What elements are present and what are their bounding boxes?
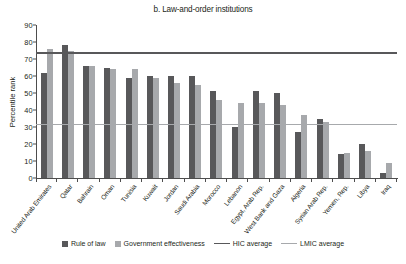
x-tick-label: Kuwait: [141, 183, 158, 202]
x-tick-mark: [163, 178, 184, 182]
bar-government-effectiveness: [68, 51, 74, 179]
x-label-cell: Tunisia: [121, 183, 142, 235]
x-tick-label: United Arab Emirates: [9, 183, 52, 235]
bar-group: [376, 25, 397, 178]
legend-item[interactable]: Government effectiveness: [115, 240, 205, 247]
y-axis-title-wrap: Percentile rank: [12, 25, 13, 178]
legend-label: Rule of law: [71, 240, 106, 247]
bar-group: [312, 25, 333, 178]
x-label-cell: Morocco: [206, 183, 227, 235]
x-tick-mark: [100, 178, 121, 182]
bar-group: [100, 25, 121, 178]
x-tick-mark: [121, 178, 142, 182]
bar-group: [185, 25, 206, 178]
x-tick-label: Iraq: [380, 183, 392, 196]
chart-figure: b. Law-and-order institutions Percentile…: [0, 0, 406, 264]
legend-label: LMIC average: [300, 240, 344, 247]
x-tick-mark: [291, 178, 312, 182]
bar-government-effectiveness: [386, 163, 392, 178]
x-tick-mark: [57, 178, 78, 182]
x-tick-mark: [333, 178, 354, 182]
bar-group: [121, 25, 142, 178]
x-label-cell: Kuwait: [142, 183, 163, 235]
x-label-cell: Oman: [100, 183, 121, 235]
bar-group: [36, 25, 57, 178]
bar-government-effectiveness: [195, 85, 201, 179]
legend-item[interactable]: Rule of law: [62, 240, 106, 247]
x-tick-label: Oman: [99, 183, 115, 201]
x-tick-mark: [185, 178, 206, 182]
bar-government-effectiveness: [365, 151, 371, 178]
x-tick-mark: [355, 178, 376, 182]
legend-item[interactable]: HIC average: [214, 240, 272, 247]
x-tick-label: Jordan: [162, 183, 180, 203]
y-axis-title: Percentile rank: [8, 76, 17, 127]
legend-swatch-rule-of-law: [62, 241, 68, 247]
x-tick-mark: [206, 178, 227, 182]
x-axis-ticks: [36, 178, 397, 182]
bar-group: [227, 25, 248, 178]
x-tick-label: Libya: [356, 183, 371, 199]
legend-swatch-government-effectiveness: [115, 241, 121, 247]
reference-line-hic-average: [36, 52, 397, 54]
bar-group: [57, 25, 78, 178]
bar-group: [163, 25, 184, 178]
x-tick-mark: [227, 178, 248, 182]
bar-government-effectiveness: [47, 49, 53, 178]
bar-government-effectiveness: [216, 100, 222, 178]
bar-group: [78, 25, 99, 178]
bar-group: [206, 25, 227, 178]
x-label-cell: Libya: [355, 183, 376, 235]
x-label-cell: Iraq: [376, 183, 397, 235]
bar-group: [270, 25, 291, 178]
legend-item[interactable]: LMIC average: [281, 240, 344, 247]
x-label-cell: Qatar: [57, 183, 78, 235]
x-label-cell: West Bank and Gaza: [270, 183, 291, 235]
x-tick-label: Bahrain: [76, 183, 95, 205]
x-tick-mark: [376, 178, 397, 182]
plot-area: 9080706050403020100: [36, 25, 397, 178]
bar-group: [333, 25, 354, 178]
x-tick-label: Algeria: [289, 183, 307, 203]
chart-legend: Rule of lawGovernment effectivenessHIC a…: [0, 240, 406, 247]
x-tick-label: Tunisia: [119, 183, 137, 203]
x-tick-mark: [36, 178, 57, 182]
bar-group: [291, 25, 312, 178]
x-label-cell: Bahrain: [78, 183, 99, 235]
x-tick-mark: [142, 178, 163, 182]
bar-government-effectiveness: [238, 103, 244, 178]
bar-government-effectiveness: [153, 78, 159, 178]
reference-line-lmic-average: [36, 124, 397, 126]
bar-government-effectiveness: [323, 122, 329, 178]
x-label-cell: United Arab Emirates: [36, 183, 57, 235]
bar-government-effectiveness: [89, 66, 95, 178]
bar-government-effectiveness: [174, 83, 180, 178]
legend-line-hic-average: [214, 243, 230, 245]
x-tick-mark: [248, 178, 269, 182]
x-tick-mark: [312, 178, 333, 182]
bar-groups: [36, 25, 397, 178]
bar-group: [248, 25, 269, 178]
legend-label: HIC average: [233, 240, 272, 247]
x-label-cell: Saudi Arabia: [185, 183, 206, 235]
legend-line-lmic-average: [281, 243, 297, 245]
x-axis-labels: United Arab EmiratesQatarBahrainOmanTuni…: [36, 183, 397, 235]
bar-government-effectiveness: [344, 153, 350, 179]
bar-group: [355, 25, 376, 178]
bar-government-effectiveness: [280, 105, 286, 178]
x-tick-mark: [78, 178, 99, 182]
bar-government-effectiveness: [259, 103, 265, 178]
chart-title: b. Law-and-order institutions: [0, 5, 406, 14]
x-tick-mark: [270, 178, 291, 182]
bar-group: [142, 25, 163, 178]
x-label-cell: Yemen, Rep.: [333, 183, 354, 235]
x-tick-label: Qatar: [58, 183, 73, 200]
legend-label: Government effectiveness: [124, 240, 205, 247]
